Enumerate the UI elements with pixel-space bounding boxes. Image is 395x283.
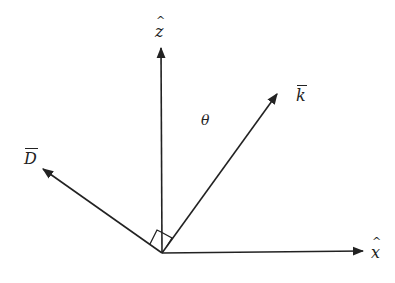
theta-label: θ bbox=[201, 113, 209, 127]
z-axis-label: z bbox=[155, 24, 163, 40]
x-axis-label: x bbox=[371, 245, 380, 261]
d-vector-label: D bbox=[24, 151, 37, 167]
vector-diagram: z k θ D x bbox=[0, 0, 395, 283]
d-vector-arrow bbox=[43, 169, 162, 253]
k-vector-label: k bbox=[296, 88, 306, 104]
x-hat-label: x bbox=[371, 245, 380, 261]
x-axis-arrow bbox=[162, 251, 363, 253]
k-bar-label: k bbox=[296, 88, 306, 104]
z-hat-label: z bbox=[155, 24, 163, 40]
d-bar-label: D bbox=[24, 151, 37, 167]
k-vector-arrow bbox=[162, 94, 277, 253]
z-axis-arrow bbox=[161, 48, 162, 253]
diagram-svg bbox=[0, 0, 395, 283]
right-angle-marker-left bbox=[150, 230, 161, 244]
